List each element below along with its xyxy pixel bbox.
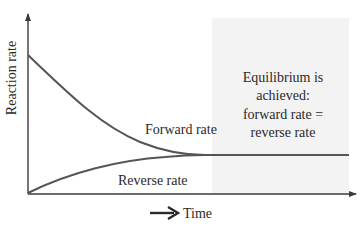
x-axis-label: Time (183, 206, 212, 221)
equilibrium-annotation-line-2: achieved: (256, 88, 310, 103)
equilibrium-annotation-line-4: reverse rate (251, 125, 316, 140)
reaction-rate-diagram: Reaction rate Forward rate Reverse rate … (0, 0, 363, 227)
y-axis-label: Reaction rate (4, 41, 19, 115)
equilibrium-annotation-line-1: Equilibrium is (243, 70, 324, 85)
equilibrium-annotation-line-3: forward rate = (243, 107, 323, 122)
forward-rate-label: Forward rate (145, 122, 217, 137)
equilibrium-shaded-region (212, 18, 349, 193)
reverse-rate-label: Reverse rate (118, 173, 188, 188)
time-arrow-icon (150, 207, 178, 219)
